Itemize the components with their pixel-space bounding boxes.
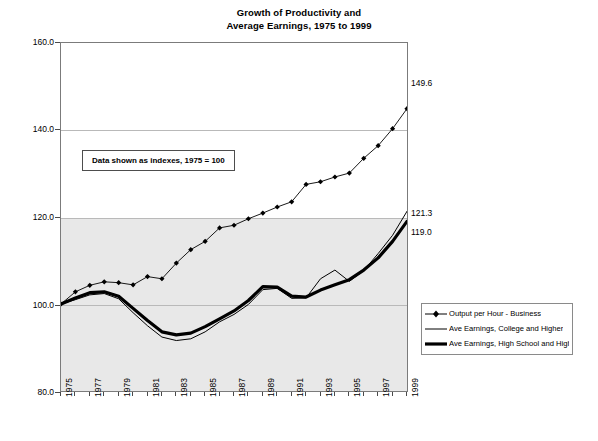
y-tick-label-120: 120.0 bbox=[4, 212, 54, 222]
x-tick-mark-1996 bbox=[363, 392, 364, 396]
x-tick-mark-1991 bbox=[291, 392, 292, 396]
chart-title-line-2: Average Earnings, 1975 to 1999 bbox=[0, 19, 598, 32]
college-earnings-end-value: 121.3 bbox=[411, 208, 432, 218]
x-tick-mark-1984 bbox=[190, 392, 191, 396]
x-tick-mark-1998 bbox=[392, 392, 393, 396]
highschool-earnings-end-value: 119.0 bbox=[411, 227, 432, 237]
chart-figure: Growth of Productivity and Average Earni… bbox=[0, 0, 598, 441]
x-tick-mark-1980 bbox=[132, 392, 133, 396]
series-high-school-and-higher bbox=[61, 221, 407, 335]
y-tick-mark-100 bbox=[55, 305, 60, 306]
x-tick-label-1997: 1997 bbox=[381, 378, 391, 397]
x-tick-mark-1987 bbox=[233, 392, 234, 396]
x-tick-label-1985: 1985 bbox=[208, 378, 218, 397]
x-tick-mark-1997 bbox=[377, 392, 378, 396]
x-tick-mark-1985 bbox=[204, 392, 205, 396]
x-tick-label-1991: 1991 bbox=[295, 378, 305, 397]
y-tick-label-100: 100.0 bbox=[4, 300, 54, 310]
x-tick-mark-1977 bbox=[89, 392, 90, 396]
series-plot bbox=[61, 43, 407, 391]
legend-item-output-per-hour[interactable]: Output per Hour - Business bbox=[425, 306, 569, 321]
x-tick-mark-1992 bbox=[305, 392, 306, 396]
chart-legend: Output per Hour - Business Ave Earnings,… bbox=[421, 303, 573, 355]
y-tick-mark-140 bbox=[55, 129, 60, 130]
x-tick-mark-1975 bbox=[60, 392, 61, 396]
y-tick-label-160: 160.0 bbox=[4, 37, 54, 47]
legend-marker-thick-line-icon bbox=[425, 338, 447, 350]
x-tick-mark-1979 bbox=[118, 392, 119, 396]
x-tick-mark-1990 bbox=[276, 392, 277, 396]
legend-item-high-school-and-higher[interactable]: Ave Earnings, High School and Higher bbox=[425, 336, 569, 351]
x-tick-label-1999: 1999 bbox=[410, 378, 420, 397]
output-per-hour-end-value: 149.6 bbox=[411, 78, 432, 88]
chart-title-line-1: Growth of Productivity and bbox=[0, 6, 598, 19]
x-tick-label-1977: 1977 bbox=[93, 378, 103, 397]
y-tick-mark-160 bbox=[55, 42, 60, 43]
y-tick-label-140: 140.0 bbox=[4, 124, 54, 134]
legend-label-college-and-higher: Ave Earnings, College and Higher bbox=[449, 324, 563, 333]
legend-label-high-school-and-higher: Ave Earnings, High School and Higher bbox=[449, 339, 569, 348]
x-tick-mark-1983 bbox=[175, 392, 176, 396]
legend-marker-thin-line-icon bbox=[425, 323, 447, 335]
x-tick-mark-1995 bbox=[348, 392, 349, 396]
legend-marker-diamond-line-icon bbox=[425, 308, 447, 320]
x-tick-label-1987: 1987 bbox=[237, 378, 247, 397]
x-tick-label-1995: 1995 bbox=[352, 378, 362, 397]
plot-area bbox=[60, 42, 408, 392]
x-tick-mark-1976 bbox=[74, 392, 75, 396]
x-tick-mark-1978 bbox=[103, 392, 104, 396]
x-tick-label-1981: 1981 bbox=[151, 378, 161, 397]
legend-item-college-and-higher[interactable]: Ave Earnings, College and Higher bbox=[425, 321, 569, 336]
x-tick-mark-1982 bbox=[161, 392, 162, 396]
x-tick-mark-1986 bbox=[219, 392, 220, 396]
y-tick-mark-120 bbox=[55, 217, 60, 218]
x-tick-label-1993: 1993 bbox=[324, 378, 334, 397]
x-tick-label-1983: 1983 bbox=[179, 378, 189, 397]
index-note-box: Data shown as indexes, 1975 = 100 bbox=[82, 150, 235, 171]
x-tick-label-1975: 1975 bbox=[64, 378, 74, 397]
x-tick-mark-1988 bbox=[247, 392, 248, 396]
index-note-text: Data shown as indexes, 1975 = 100 bbox=[92, 156, 225, 165]
x-tick-mark-1999 bbox=[406, 392, 407, 396]
x-tick-label-1979: 1979 bbox=[122, 378, 132, 397]
chart-title: Growth of Productivity and Average Earni… bbox=[0, 6, 598, 32]
x-tick-mark-1994 bbox=[334, 392, 335, 396]
legend-label-output-per-hour: Output per Hour - Business bbox=[449, 309, 541, 318]
x-tick-mark-1989 bbox=[262, 392, 263, 396]
y-tick-label-80: 80.0 bbox=[4, 387, 54, 397]
x-tick-mark-1993 bbox=[320, 392, 321, 396]
x-tick-label-1989: 1989 bbox=[266, 378, 276, 397]
x-tick-mark-1981 bbox=[147, 392, 148, 396]
